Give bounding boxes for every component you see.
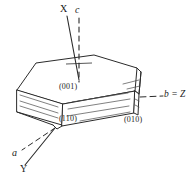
- y-axis-label: Y: [20, 164, 27, 174]
- face-110-label: (110): [59, 115, 77, 123]
- crystal-drawing: [0, 0, 189, 183]
- right-face-lower-edge: [139, 72, 141, 94]
- c-axis-label: c: [75, 5, 79, 15]
- face-001-label: (001): [59, 83, 77, 91]
- b-z-axis-line: [140, 96, 163, 97]
- crystal-diagram-figure: X c (001) (110) (010) b = Z a Y: [0, 0, 189, 183]
- y-axis-line: [25, 128, 55, 165]
- right-face-010: [134, 91, 139, 115]
- b-z-axis-label: b = Z: [164, 90, 185, 100]
- x-axis-label: X: [60, 4, 67, 14]
- a-axis-label: a: [12, 148, 17, 158]
- a-axis-line: [22, 128, 55, 150]
- face-010-label: (010): [124, 116, 142, 124]
